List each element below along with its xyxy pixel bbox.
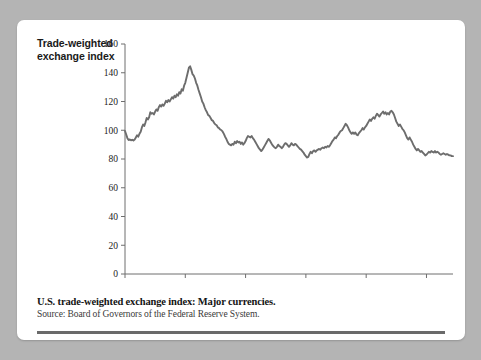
x-tick-label: 2005 xyxy=(417,281,436,282)
bottom-rule xyxy=(37,331,445,334)
series-line xyxy=(125,66,453,157)
y-tick-label: 40 xyxy=(109,212,119,222)
x-tick-label: 1985 xyxy=(176,281,195,282)
y-tick-label: 0 xyxy=(113,269,118,279)
y-tick-label: 140 xyxy=(104,68,119,78)
x-tick-label: 2000 xyxy=(357,281,376,282)
y-tick-label: 100 xyxy=(104,126,119,136)
x-tick-label: 1990 xyxy=(236,281,255,282)
x-tick-label: 1980 xyxy=(116,281,135,282)
figure-card: Trade-weighted exchange index 0204060801… xyxy=(17,20,465,340)
caption-title: U.S. trade-weighted exchange index: Majo… xyxy=(37,296,447,307)
y-tick-label: 20 xyxy=(109,241,119,251)
plot-area: 0204060801001201401601980198519901995200… xyxy=(17,20,465,282)
caption-source: Source: Board of Governors of the Federa… xyxy=(37,309,447,319)
y-tick-label: 60 xyxy=(109,183,119,193)
y-tick-label: 160 xyxy=(104,39,119,49)
y-tick-label: 120 xyxy=(104,97,119,107)
x-tick-label: 1995 xyxy=(296,281,315,282)
y-tick-label: 80 xyxy=(109,154,119,164)
caption: U.S. trade-weighted exchange index: Majo… xyxy=(37,296,447,319)
line-chart: 0204060801001201401601980198519901995200… xyxy=(17,20,465,282)
figure-root: Trade-weighted exchange index 0204060801… xyxy=(0,0,481,360)
